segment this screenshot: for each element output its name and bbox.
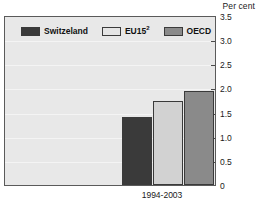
chart-legend: Switzeland EU152 OECD <box>21 26 211 36</box>
legend-label-oecd: OECD <box>187 26 212 36</box>
ytick-label-1-0: 1.0 <box>220 133 232 143</box>
legend-label-eu15-footnote: 2 <box>146 25 149 31</box>
legend-label-eu15-text: EU15 <box>125 26 146 36</box>
bar-eu15 <box>153 101 183 186</box>
ytick-label-3-5: 3.5 <box>220 12 232 22</box>
plot-inner <box>5 17 215 185</box>
ytick-label-1-5: 1.5 <box>220 109 232 119</box>
legend-swatch-eu15 <box>102 27 121 36</box>
legend-label-switzerland: Switzeland <box>44 26 88 36</box>
bar-oecd <box>184 91 214 185</box>
ytick-label-3-0: 3.0 <box>220 36 232 46</box>
xaxis-category-label: 1994-2003 <box>142 190 183 200</box>
legend-item-switzerland: Switzeland <box>21 26 88 36</box>
ytick-label-0: 0 <box>220 181 225 191</box>
legend-swatch-oecd <box>164 27 183 36</box>
plot-area: Switzeland EU152 OECD <box>4 16 216 186</box>
ytick-label-0-5: 0.5 <box>220 157 232 167</box>
legend-label-eu15: EU152 <box>125 26 150 36</box>
legend-item-eu15: EU152 <box>102 26 150 36</box>
bar-group <box>5 17 215 185</box>
legend-item-oecd: OECD <box>164 26 212 36</box>
chart-figure: Per cent <box>0 0 257 208</box>
bar-switzerland <box>122 117 152 185</box>
ytick-label-2-0: 2.0 <box>220 84 232 94</box>
ytick-label-2-5: 2.5 <box>220 60 232 70</box>
xaxis-label: 1994-2003 <box>4 190 216 200</box>
axis-unit-label: Per cent <box>223 1 255 11</box>
legend-swatch-switzerland <box>21 27 40 36</box>
